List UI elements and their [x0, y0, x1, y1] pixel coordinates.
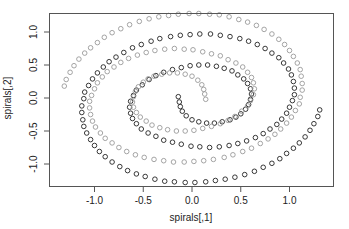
x-tick-label: -1.0: [86, 195, 104, 206]
x-tick-label: -0.5: [135, 195, 153, 206]
x-tick-label: 1.0: [283, 195, 297, 206]
y-tick-label: 0.0: [28, 91, 39, 105]
y-tick-label: -1.0: [28, 155, 39, 173]
y-tick-label: 1.0: [28, 25, 39, 39]
y-tick-label: -0.5: [28, 122, 39, 140]
plot-background: [0, 0, 349, 229]
x-tick-label: 0.5: [234, 195, 248, 206]
x-tick-label: 0.0: [185, 195, 199, 206]
y-tick-label: 0.5: [28, 58, 39, 72]
scatter-chart: -1.0-0.50.00.51.0 -1.0-0.50.00.51.0 spir…: [0, 0, 349, 229]
y-axis-title: spirals[,2]: [2, 76, 13, 119]
x-axis-title: spirals[,1]: [170, 212, 213, 223]
